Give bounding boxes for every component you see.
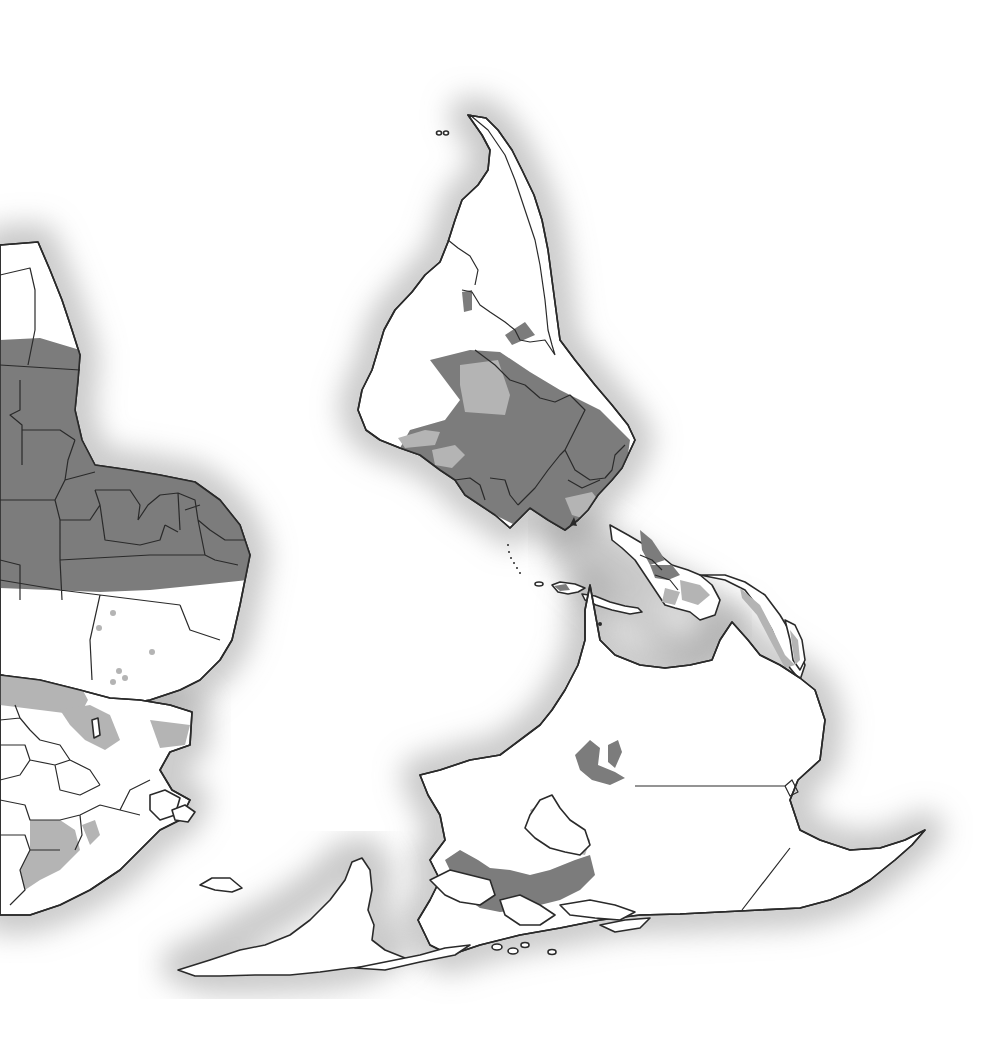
europe-partial (0, 668, 195, 915)
map-canvas (0, 0, 1002, 1042)
small-islands-top (437, 131, 449, 135)
